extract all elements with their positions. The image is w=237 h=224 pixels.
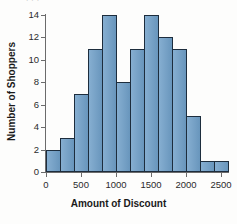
y-tick-label: 10 [28, 54, 39, 65]
histogram-bar [74, 94, 89, 173]
x-tick-mark [221, 172, 222, 177]
y-tick-label: 14 [28, 9, 39, 20]
x-tick-mark [151, 172, 152, 177]
histogram-bar [172, 49, 187, 172]
y-tick-label: 2 [34, 144, 39, 155]
histogram-bar [130, 49, 145, 172]
histogram-bar [88, 49, 103, 172]
y-tick-mark [41, 60, 45, 61]
y-tick-mark [41, 15, 45, 16]
y-tick-mark [41, 37, 45, 38]
x-tick-label: 1500 [140, 179, 161, 190]
y-tick-label: 0 [34, 166, 39, 177]
histogram-bar [200, 161, 215, 172]
x-tick-mark [46, 172, 47, 177]
x-tick-mark [116, 172, 117, 177]
cropped-caption-text: ||| [26, 0, 42, 1]
y-tick-mark [41, 82, 45, 83]
y-tick-label: 12 [28, 31, 39, 42]
y-tick-mark [41, 127, 45, 128]
histogram-bar [144, 15, 159, 172]
cropped-caption-remnant: ||| [0, 0, 237, 7]
histogram-bar [214, 161, 229, 172]
histogram-figure: ||| 02468101214 05001000150020002500 Num… [0, 0, 237, 224]
histogram-bar [102, 15, 117, 172]
histogram-bar [158, 37, 173, 172]
y-tick-label: 8 [34, 76, 39, 87]
y-tick-mark [41, 172, 45, 173]
x-tick-mark [81, 172, 82, 177]
x-tick-label: 0 [43, 179, 48, 190]
histogram-bar [46, 150, 61, 172]
x-axis-title: Amount of Discount [0, 198, 237, 209]
y-tick-mark [41, 150, 45, 151]
y-tick-mark [41, 105, 45, 106]
histogram-bar [186, 116, 201, 172]
x-tick-label: 2500 [210, 179, 231, 190]
plot-area [46, 15, 228, 172]
y-tick-label: 4 [34, 121, 39, 132]
histogram-bar [116, 82, 131, 172]
y-tick-label: 6 [34, 99, 39, 110]
y-axis-title: Number of Shoppers [6, 33, 17, 151]
x-tick-label: 1000 [105, 179, 126, 190]
histogram-bar [60, 138, 75, 172]
x-tick-label: 2000 [175, 179, 196, 190]
x-tick-mark [186, 172, 187, 177]
x-axis-line [45, 172, 229, 173]
x-tick-label: 500 [73, 179, 89, 190]
